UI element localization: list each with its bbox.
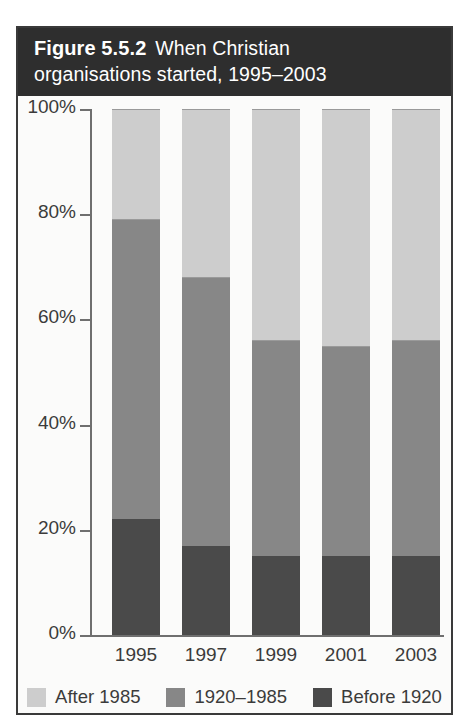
bar-1999[interactable]	[252, 109, 300, 635]
y-tick-20: 20%	[18, 530, 90, 531]
y-tick-60: 60%	[18, 319, 90, 320]
figure-number: Figure 5.5.2	[34, 37, 146, 59]
y-tick-label-40: 40%	[38, 412, 76, 434]
x-tick-label-2003: 2003	[381, 644, 451, 666]
chart-legend: After 1985 1920–1985 Before 1920	[18, 686, 451, 708]
plot-body: 100% 80% 60% 40% 20% 0%	[18, 96, 451, 713]
x-tick-label-2001: 2001	[311, 644, 381, 666]
x-axis-line	[90, 635, 444, 637]
legend-swatch-before-1920	[313, 688, 332, 707]
y-tick-label-60: 60%	[38, 306, 76, 328]
y-tick-mark-100	[80, 109, 90, 111]
figure-title-part-1: When Christian	[155, 37, 290, 59]
bar-segment[interactable]	[182, 277, 230, 545]
y-tick-100: 100%	[18, 109, 90, 110]
bar-segment[interactable]	[112, 219, 160, 519]
bar-2003[interactable]	[392, 109, 440, 635]
bar-segment[interactable]	[392, 340, 440, 556]
bar-segment[interactable]	[182, 109, 230, 277]
bar-segment[interactable]	[322, 346, 370, 556]
bar-segment[interactable]	[252, 109, 300, 340]
y-tick-mark-20	[80, 530, 90, 532]
bar-segment[interactable]	[182, 546, 230, 635]
figure-title-line-2: organisations started, 1995–2003	[34, 61, 437, 87]
legend-swatch-after-1985	[27, 688, 46, 707]
legend-label-after-1985: After 1985	[55, 686, 140, 708]
bar-segment[interactable]	[392, 556, 440, 635]
bar-segment[interactable]	[392, 109, 440, 340]
bar-segment[interactable]	[112, 519, 160, 635]
y-tick-mark-80	[80, 214, 90, 216]
y-tick-label-0: 0%	[49, 622, 76, 644]
bar-1995[interactable]	[112, 109, 160, 635]
x-tick-label-1997: 1997	[171, 644, 241, 666]
figure-frame: Figure 5.5.2When Christian organisations…	[16, 26, 453, 715]
y-tick-mark-40	[80, 425, 90, 427]
y-tick-label-80: 80%	[38, 201, 76, 223]
y-tick-40: 40%	[18, 425, 90, 426]
y-tick-label-100: 100%	[27, 96, 76, 118]
bar-segment[interactable]	[252, 340, 300, 556]
y-tick-mark-60	[80, 319, 90, 321]
x-tick-label-1995: 1995	[101, 644, 171, 666]
legend-item-after-1985[interactable]: After 1985	[27, 686, 140, 708]
bar-1997[interactable]	[182, 109, 230, 635]
figure-title-line-1: Figure 5.5.2When Christian	[34, 35, 437, 61]
legend-label-before-1920: Before 1920	[341, 686, 442, 708]
y-tick-mark-0	[80, 635, 90, 637]
bar-segment[interactable]	[112, 109, 160, 219]
bar-segment[interactable]	[322, 556, 370, 635]
x-tick-label-1999: 1999	[241, 644, 311, 666]
legend-label-1920-1985: 1920–1985	[194, 686, 287, 708]
bar-segment[interactable]	[322, 109, 370, 346]
plot-area	[90, 109, 442, 635]
y-tick-0: 0%	[18, 635, 90, 636]
y-tick-label-20: 20%	[38, 517, 76, 539]
bar-segment[interactable]	[252, 556, 300, 635]
legend-item-1920-1985[interactable]: 1920–1985	[166, 686, 287, 708]
legend-swatch-1920-1985	[166, 688, 185, 707]
figure-title-band: Figure 5.5.2When Christian organisations…	[18, 28, 451, 96]
figure-root: Figure 5.5.2When Christian organisations…	[0, 0, 467, 727]
y-tick-80: 80%	[18, 214, 90, 215]
bar-2001[interactable]	[322, 109, 370, 635]
legend-item-before-1920[interactable]: Before 1920	[313, 686, 442, 708]
